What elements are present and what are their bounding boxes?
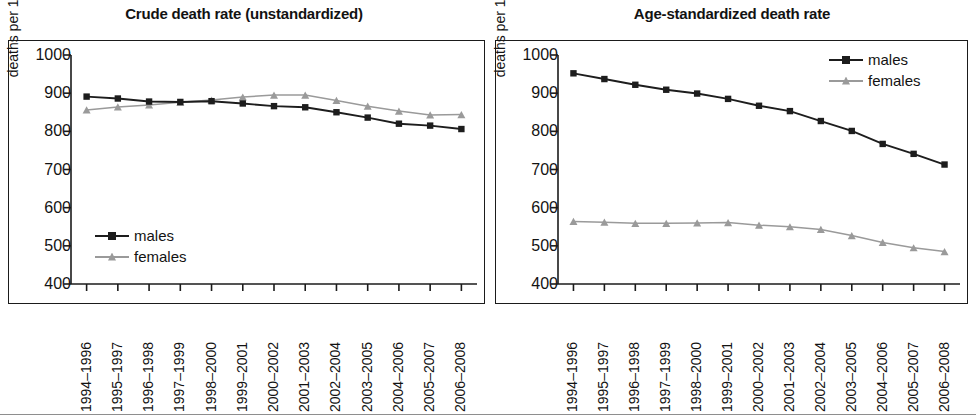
x-tick-label: 1994–1996 <box>564 306 580 412</box>
x-tick-label: 2004–2006 <box>390 306 406 412</box>
plot-area <box>9 41 483 302</box>
legend-item-males: males <box>95 225 187 246</box>
x-tick-label: 2005–2007 <box>421 306 437 412</box>
x-tick-label: 1996–1998 <box>626 306 642 412</box>
x-tick-label: 1995–1997 <box>109 306 125 412</box>
panel-title: Age-standardized death rate <box>488 5 976 22</box>
x-tick-label: 2000–2002 <box>750 306 766 412</box>
x-tick-label: 1998–2000 <box>688 306 704 412</box>
x-tick-label: 2001–2003 <box>781 306 797 412</box>
x-tick-label: 1999–2001 <box>719 306 735 412</box>
plot-frame: deaths per 100,000 100090080070060050040… <box>8 40 485 304</box>
legend: males females <box>95 225 187 267</box>
x-tick-label: 1997–1999 <box>171 306 187 412</box>
x-tick-label: 1998–2000 <box>203 306 219 412</box>
legend-label-males: males <box>868 52 908 67</box>
panel-age-standardized-death-rate: Age-standardized death rate deaths per 1… <box>488 0 976 418</box>
bottom-divider <box>0 414 976 415</box>
x-tick-labels: 1994–19961995–19971996–19981997–19991998… <box>8 306 485 412</box>
x-tick-label: 1997–1999 <box>657 306 673 412</box>
x-tick-label: 2004–2006 <box>874 306 890 412</box>
figure-two-panel-death-rates: Crude death rate (unstandardized) deaths… <box>0 0 976 418</box>
legend-key-females-icon <box>95 250 129 264</box>
legend-key-females-icon <box>829 74 863 88</box>
x-tick-label: 1996–1998 <box>140 306 156 412</box>
legend-label-males: males <box>134 228 174 243</box>
x-tick-label: 1994–1996 <box>78 306 94 412</box>
legend-item-males: males <box>829 49 921 70</box>
legend-key-males-icon <box>95 229 129 243</box>
x-tick-label: 2002–2004 <box>812 306 828 412</box>
legend: males females <box>829 49 921 91</box>
x-tick-label: 2006–2008 <box>936 306 952 412</box>
panel-title: Crude death rate (unstandardized) <box>0 5 488 22</box>
x-tick-label: 2003–2005 <box>359 306 375 412</box>
plot-frame: deaths per 100,000 100090080070060050040… <box>495 40 968 304</box>
panel-crude-death-rate: Crude death rate (unstandardized) deaths… <box>0 0 488 418</box>
legend-item-females: females <box>829 70 921 91</box>
legend-label-females: females <box>134 249 187 264</box>
legend-key-males-icon <box>829 53 863 67</box>
x-tick-label: 2005–2007 <box>905 306 921 412</box>
x-tick-label: 2002–2004 <box>327 306 343 412</box>
legend-item-females: females <box>95 246 187 267</box>
x-tick-label: 1999–2001 <box>234 306 250 412</box>
x-tick-labels: 1994–19961995–19971996–19981997–19991998… <box>495 306 968 412</box>
x-tick-label: 2001–2003 <box>296 306 312 412</box>
x-tick-label: 2006–2008 <box>452 306 468 412</box>
x-tick-label: 2000–2002 <box>265 306 281 412</box>
x-tick-label: 2003–2005 <box>843 306 859 412</box>
legend-label-females: females <box>868 73 921 88</box>
x-tick-label: 1995–1997 <box>595 306 611 412</box>
